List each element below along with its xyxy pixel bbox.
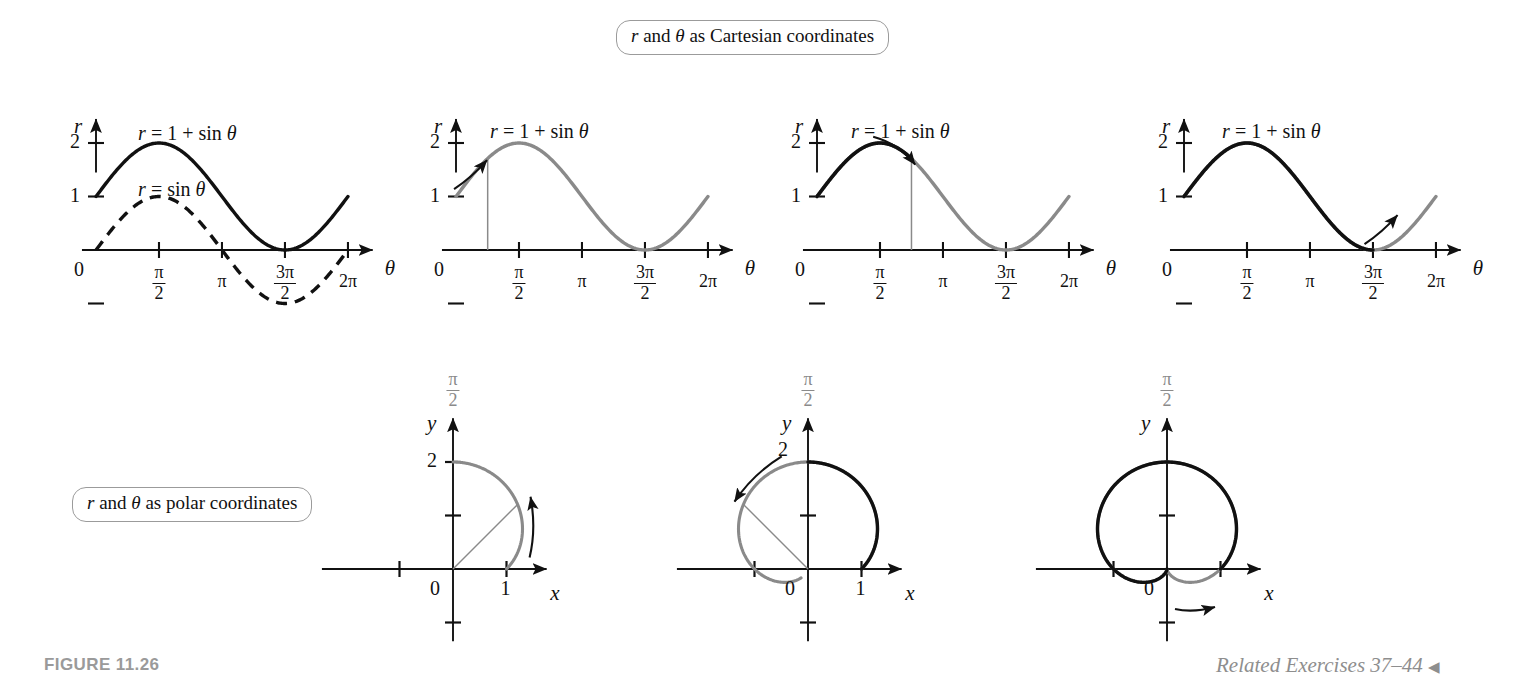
cartesian-2-origin-label: 0 bbox=[434, 258, 444, 281]
cartesian-1-series-1-label: r = sin θ bbox=[138, 179, 205, 199]
polar-2-radius-line bbox=[743, 504, 808, 569]
cartesian-2-xlabel-π: π bbox=[575, 272, 588, 291]
cartesian-2-xlabel-3π/2: 3π2 bbox=[634, 263, 656, 303]
cartesian-4-series-0-label: r = 1 + sin θ bbox=[1222, 121, 1321, 141]
callout-cartesian-theta: θ bbox=[675, 25, 684, 46]
cartesian-2-ylabel-1: 1 bbox=[430, 184, 440, 207]
polar-1-direction-arrow bbox=[530, 497, 534, 558]
callout-polar-theta: θ bbox=[131, 492, 140, 513]
cartesian-4-xlabel-3π/2: 3π2 bbox=[1362, 263, 1384, 303]
cartesian-1-xlabel-π/2: π2 bbox=[152, 263, 165, 303]
polar-1-x-axis-label: x bbox=[550, 581, 559, 606]
polar-1-cardioid bbox=[453, 462, 523, 569]
related-exercises: Related Exercises 37–44◀ bbox=[1216, 653, 1440, 678]
cartesian-3-curve-traced bbox=[817, 143, 911, 197]
polar-3-origin-label: 0 bbox=[1144, 577, 1154, 600]
cartesian-3-y-axis-label: r bbox=[795, 114, 803, 139]
polar-3-x-axis-label: x bbox=[1264, 581, 1273, 606]
cartesian-2-xlabel-2π: 2π bbox=[697, 272, 719, 291]
callout-polar: r and θ as polar coordinates bbox=[72, 487, 312, 522]
polar-2-y-axis-label: y bbox=[782, 411, 791, 436]
cartesian-2-y-axis-label: r bbox=[434, 114, 442, 139]
polar-1-top-angle-label: π2 bbox=[446, 370, 459, 410]
cartesian-2-x-axis-label: θ bbox=[745, 256, 755, 281]
cartesian-3-series-0-label: r = 1 + sin θ bbox=[851, 121, 950, 141]
cartesian-4-direction-arrow bbox=[1365, 215, 1398, 244]
cartesian-1-xlabel-2π: 2π bbox=[337, 272, 359, 291]
polar-3-direction-arrow bbox=[1175, 607, 1215, 611]
figure-canvas: r and θ as Cartesian coordinates r and θ… bbox=[0, 0, 1516, 693]
cartesian-3-curve-cardioid bbox=[817, 143, 1069, 250]
cartesian-1-xlabel-3π/2: 3π2 bbox=[274, 263, 296, 303]
cartesian-1-ylabel-1: 1 bbox=[70, 184, 80, 207]
cartesian-2-direction-arrow bbox=[454, 160, 487, 189]
callout-polar-and: and bbox=[94, 492, 131, 513]
cartesian-3-xlabel-π/2: π2 bbox=[873, 263, 886, 303]
cartesian-4-y-axis-label: r bbox=[1162, 114, 1170, 139]
polar-1-y-axis-label: y bbox=[427, 411, 436, 436]
polar-3-top-angle-label: π2 bbox=[1160, 370, 1173, 410]
cartesian-1-origin-label: 0 bbox=[74, 258, 84, 281]
callout-cartesian-and: and bbox=[638, 25, 675, 46]
cartesian-3-origin-label: 0 bbox=[795, 258, 805, 281]
cartesian-2-xlabel-π/2: π2 bbox=[512, 263, 525, 303]
polar-2-xtick-label-1: 1 bbox=[856, 577, 866, 600]
cartesian-1-x-axis-label: θ bbox=[385, 256, 395, 281]
cartesian-3-xlabel-2π: 2π bbox=[1058, 272, 1080, 291]
cartesian-1-xlabel-π: π bbox=[215, 272, 228, 291]
cartesian-3-ylabel-1: 1 bbox=[791, 184, 801, 207]
cartesian-2-series-0-label: r = 1 + sin θ bbox=[490, 121, 589, 141]
cartesian-3-xlabel-3π/2: 3π2 bbox=[995, 263, 1017, 303]
cartesian-4-xlabel-π: π bbox=[1303, 272, 1316, 291]
cartesian-4-xlabel-π/2: π2 bbox=[1240, 263, 1253, 303]
cartesian-4-origin-label: 0 bbox=[1162, 258, 1172, 281]
cartesian-1-curve-cardioid bbox=[96, 143, 348, 250]
cartesian-1-y-axis-label: r bbox=[74, 114, 82, 139]
cartesian-4-xlabel-2π: 2π bbox=[1425, 272, 1447, 291]
cartesian-2-curve-cardioid bbox=[456, 143, 708, 250]
cartesian-3-xlabel-π: π bbox=[936, 272, 949, 291]
cartesian-1-series-0-label: r = 1 + sin θ bbox=[138, 123, 237, 143]
polar-2-direction-arrow bbox=[735, 456, 782, 501]
related-exercises-text: Related Exercises 37–44 bbox=[1216, 653, 1423, 677]
polar-1-radius-line bbox=[453, 504, 518, 569]
cartesian-3-x-axis-label: θ bbox=[1106, 256, 1116, 281]
callout-polar-rest: as polar coordinates bbox=[141, 492, 298, 513]
polar-2-ytick-label-2: 2 bbox=[778, 438, 788, 461]
figure-svg bbox=[0, 0, 1516, 693]
polar-2-x-axis-label: x bbox=[905, 581, 914, 606]
cartesian-4-x-axis-label: θ bbox=[1473, 256, 1483, 281]
polar-1-xtick-label-1: 1 bbox=[501, 577, 511, 600]
figure-number: FIGURE 11.26 bbox=[44, 655, 159, 675]
polar-3-y-axis-label: y bbox=[1141, 411, 1150, 436]
related-exercises-marker-icon: ◀ bbox=[1423, 659, 1440, 675]
callout-cartesian-rest: as Cartesian coordinates bbox=[685, 25, 874, 46]
polar-2-cardioid-traced bbox=[808, 462, 878, 569]
callout-cartesian: r and θ as Cartesian coordinates bbox=[616, 20, 889, 55]
polar-1-origin-label: 0 bbox=[430, 577, 440, 600]
cartesian-4-curve-traced bbox=[1184, 143, 1373, 250]
polar-2-origin-label: 0 bbox=[785, 577, 795, 600]
polar-2-top-angle-label: π2 bbox=[801, 370, 814, 410]
polar-1-ytick-label-2: 2 bbox=[427, 449, 437, 472]
cartesian-4-ylabel-1: 1 bbox=[1158, 184, 1168, 207]
